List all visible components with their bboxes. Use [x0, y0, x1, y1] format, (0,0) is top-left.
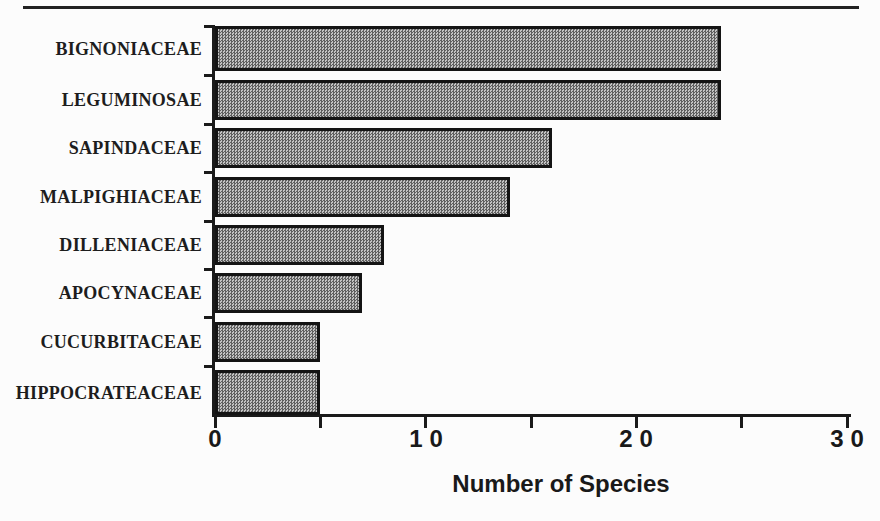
bar-bignoniaceae — [215, 26, 721, 71]
top-rule-line — [23, 6, 859, 9]
y-axis-tick — [204, 316, 215, 319]
bar-cucurbitaceae — [215, 322, 320, 362]
bar-sapindaceae — [215, 128, 552, 168]
bar-leguminosae — [215, 80, 721, 120]
y-axis-tick — [204, 268, 215, 271]
category-label-hippocrateaceae: HIPPOCRATEACEAE — [0, 382, 202, 404]
y-axis-tick — [204, 365, 215, 368]
category-label-apocynaceae: APOCYNACEAE — [0, 282, 202, 304]
bar-hippocrateaceae — [215, 370, 320, 415]
category-label-bignoniaceae: BIGNONIACEAE — [0, 38, 202, 60]
category-label-dilleniaceae: DILLENIACEAE — [0, 234, 202, 256]
x-axis-title: Number of Species — [452, 471, 669, 497]
y-axis-tick — [204, 74, 215, 77]
x-axis-tick-25 — [740, 414, 743, 428]
x-axis-tick-5 — [319, 414, 322, 428]
x-axis-tick-label-30: 30 — [823, 427, 871, 451]
x-axis-tick-label-0: 0 — [201, 427, 228, 451]
category-label-cucurbitaceae: CUCURBITACEAE — [0, 331, 202, 353]
y-axis-tick — [204, 171, 215, 174]
category-label-malpighiaceae: MALPIGHIACEAE — [0, 186, 202, 208]
bar-chart-figure: BIGNONIACEAELEGUMINOSAESAPINDACEAEMALPIG… — [0, 0, 880, 521]
bar-malpighiaceae — [215, 177, 510, 217]
bar-apocynaceae — [215, 273, 362, 313]
y-axis-tick — [204, 220, 215, 223]
x-axis-tick-label-20: 20 — [612, 427, 660, 451]
category-label-sapindaceae: SAPINDACEAE — [0, 137, 202, 159]
x-axis-tick-label-10: 10 — [402, 427, 450, 451]
y-axis-tick — [204, 25, 215, 28]
x-axis-tick-15 — [530, 414, 533, 428]
bar-dilleniaceae — [215, 225, 384, 265]
category-label-leguminosae: LEGUMINOSAE — [0, 89, 202, 111]
y-axis-tick — [204, 123, 215, 126]
